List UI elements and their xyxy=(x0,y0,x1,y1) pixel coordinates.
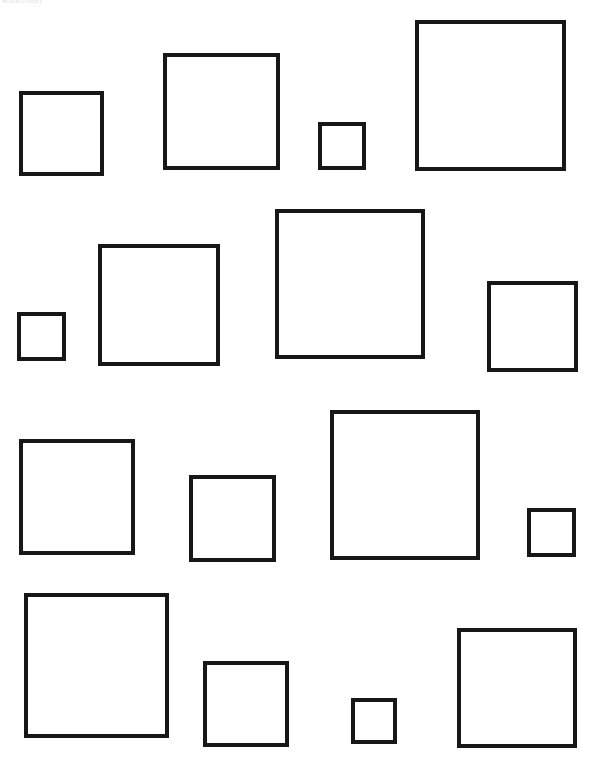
row-1-square-1 xyxy=(19,91,104,176)
row-2-square-4 xyxy=(487,281,578,372)
row-3-square-1 xyxy=(19,439,135,555)
row-2-square-2 xyxy=(98,244,220,366)
row-4-square-1 xyxy=(24,593,169,738)
row-3-square-4 xyxy=(527,508,576,557)
row-2-square-3 xyxy=(275,209,425,359)
worksheet-page: worksheet xyxy=(0,0,597,768)
row-4-square-2 xyxy=(203,661,289,747)
row-2-square-1 xyxy=(17,312,66,361)
row-3-square-2 xyxy=(189,475,276,562)
row-4-square-4 xyxy=(457,628,577,748)
row-1-square-3 xyxy=(318,122,366,170)
row-3-square-3 xyxy=(330,410,480,560)
row-1-square-2 xyxy=(163,53,280,170)
page-header-text: worksheet xyxy=(2,0,42,5)
row-1-square-4 xyxy=(415,20,566,171)
row-4-square-3 xyxy=(351,698,397,744)
